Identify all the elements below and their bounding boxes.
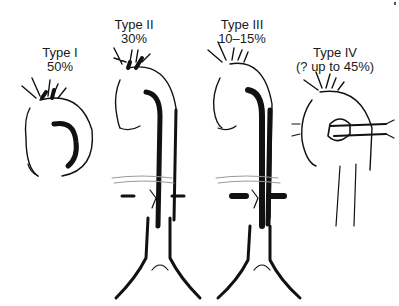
- type-4-aorta-drawing: [292, 72, 394, 226]
- diagram-canvas: [0, 0, 399, 306]
- type-2-aorta-drawing: [112, 48, 200, 298]
- corner-mark: [394, 2, 396, 5]
- type-1-aorta-drawing: [22, 78, 92, 176]
- type-3-aorta-drawing: [208, 42, 300, 298]
